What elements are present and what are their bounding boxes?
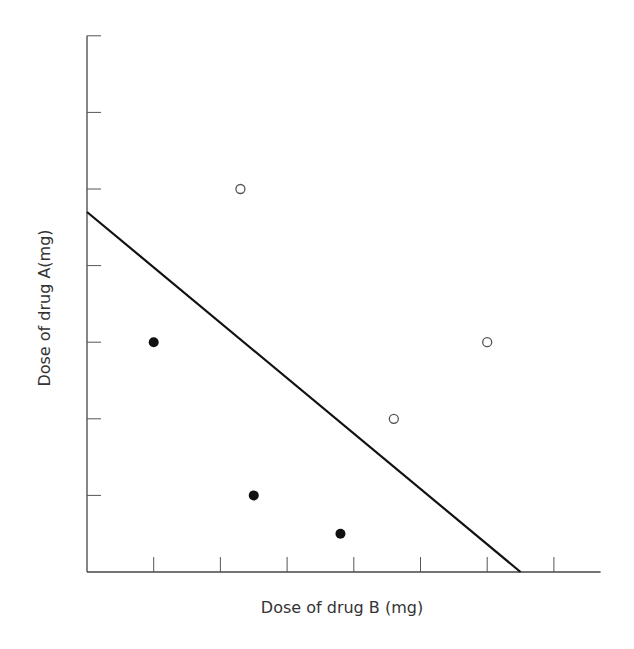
filled-circle-point bbox=[335, 529, 345, 539]
isobole-line-segment bbox=[87, 212, 521, 572]
filled-circle-point bbox=[249, 490, 259, 500]
axes bbox=[87, 36, 601, 572]
scatter-chart bbox=[0, 0, 634, 649]
open-circle-point bbox=[483, 338, 492, 347]
open-circle-point bbox=[389, 414, 398, 423]
y-axis-label: Dose of drug A(mg) bbox=[35, 229, 54, 386]
isobole-line bbox=[87, 212, 521, 572]
x-axis-label: Dose of drug B (mg) bbox=[0, 598, 634, 617]
filled-circle-point bbox=[149, 337, 159, 347]
open-circle-point bbox=[236, 185, 245, 194]
data-points bbox=[149, 185, 492, 539]
